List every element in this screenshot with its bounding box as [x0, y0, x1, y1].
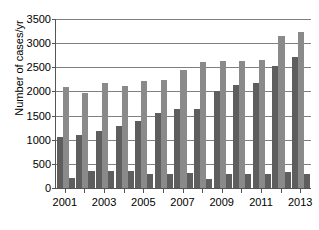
x-tick-label: 2013	[288, 196, 312, 208]
y-tick-label: 3000	[5, 38, 51, 49]
x-tick-mark	[84, 189, 85, 193]
x-tick-mark	[202, 189, 203, 193]
bar	[245, 174, 251, 188]
y-axis-tick-labels: 0500100015002000250030003500	[0, 0, 51, 230]
x-tick-mark	[300, 189, 301, 193]
bar-group	[232, 19, 252, 188]
y-tick-label: 2500	[5, 62, 51, 73]
y-tick-label: 3500	[5, 14, 51, 25]
x-tick-mark	[183, 189, 184, 193]
bar	[128, 171, 134, 188]
bar-group	[213, 19, 233, 188]
y-tick-label: 1500	[5, 110, 51, 121]
bar	[259, 60, 265, 188]
bar	[180, 70, 186, 188]
x-tick-label: 2001	[53, 196, 77, 208]
bar	[88, 171, 94, 188]
bar	[298, 32, 304, 188]
y-tick-label: 0	[5, 183, 51, 194]
x-tick-label: 2007	[170, 196, 194, 208]
bar	[265, 174, 271, 188]
x-tick-mark	[261, 189, 262, 193]
x-tick-mark	[222, 189, 223, 193]
bar-group	[154, 19, 174, 188]
bar	[161, 80, 167, 188]
bar-group	[134, 19, 154, 188]
bar-group	[174, 19, 194, 188]
bar	[147, 174, 153, 188]
bar	[187, 173, 193, 188]
plot-area	[55, 19, 311, 189]
x-tick-mark	[143, 189, 144, 193]
x-tick-mark	[65, 189, 66, 193]
x-tick-mark	[281, 189, 282, 193]
bar-group	[252, 19, 272, 188]
bar-group	[193, 19, 213, 188]
x-tick-mark	[241, 189, 242, 193]
y-tick-label: 2000	[5, 86, 51, 97]
x-tick-mark	[124, 189, 125, 193]
bar-group	[272, 19, 292, 188]
bar-group	[56, 19, 76, 188]
x-tick-label: 2009	[209, 196, 233, 208]
bar	[63, 87, 69, 188]
bar-chart-figure: Number of cases/yr 050010001500200025003…	[0, 0, 319, 230]
x-tick-label: 2011	[249, 196, 273, 208]
bar-groups	[56, 19, 311, 188]
x-tick-label: 2003	[92, 196, 116, 208]
x-axis-tick-labels: 2001200320052007200920112013	[55, 196, 310, 216]
bar	[226, 174, 232, 188]
bar	[239, 61, 245, 188]
bar-group	[115, 19, 135, 188]
y-tick-label: 1000	[5, 134, 51, 145]
bar	[200, 62, 206, 188]
bar	[304, 174, 310, 188]
bar	[108, 171, 114, 188]
x-tick-mark	[163, 189, 164, 193]
bar	[220, 61, 226, 188]
x-tick-label: 2005	[131, 196, 155, 208]
bar	[69, 178, 75, 188]
bar	[285, 172, 291, 188]
bar-group	[95, 19, 115, 188]
bar	[167, 174, 173, 188]
bar	[206, 179, 212, 188]
bar-group	[76, 19, 96, 188]
bar	[141, 81, 147, 188]
bar-group	[291, 19, 311, 188]
x-tick-mark	[104, 189, 105, 193]
y-tick-label: 500	[5, 158, 51, 169]
bar	[278, 36, 284, 188]
